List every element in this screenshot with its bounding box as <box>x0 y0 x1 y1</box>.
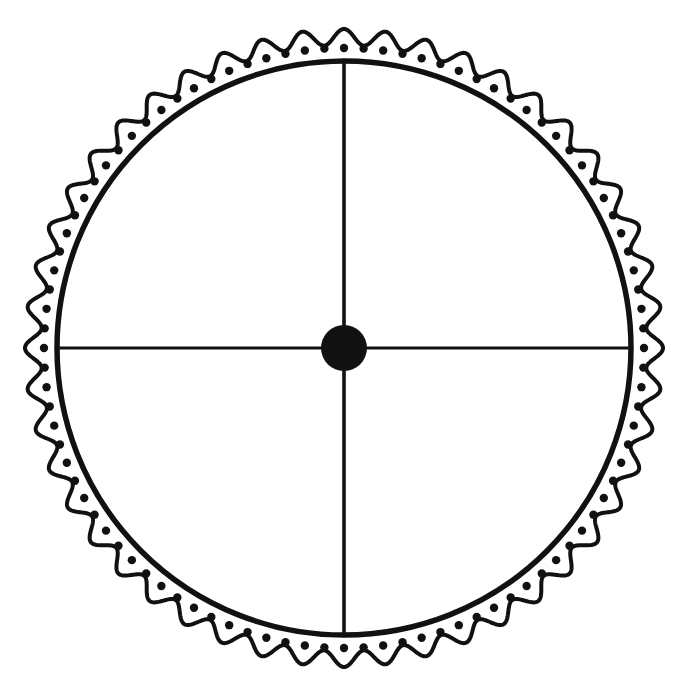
rim-dot <box>617 459 625 467</box>
rim-dot <box>173 593 181 601</box>
rim-dot <box>340 44 348 52</box>
rim-dot <box>490 604 498 612</box>
rim-dot <box>90 177 98 185</box>
rim-dot <box>600 494 608 502</box>
rim-dot <box>157 582 165 590</box>
rim-dot <box>46 285 54 293</box>
rim-dot <box>80 494 88 502</box>
rim-dot <box>506 94 514 102</box>
rim-dot <box>281 638 289 646</box>
rim-dot <box>40 324 48 332</box>
rim-dot <box>63 229 71 237</box>
rim-dot <box>639 324 647 332</box>
rim-dot <box>552 132 560 140</box>
rim-dot <box>359 44 367 52</box>
wheel-canvas <box>0 0 695 692</box>
rim-dot <box>634 402 642 410</box>
rim-dot <box>63 459 71 467</box>
rim-dot <box>42 383 50 391</box>
rim-dot <box>320 44 328 52</box>
rim-dot <box>225 67 233 75</box>
rim-dot <box>640 344 648 352</box>
rim-dot <box>262 54 270 62</box>
rim-dot <box>472 75 480 83</box>
rim-dot <box>578 526 586 534</box>
rim-dot <box>359 643 367 651</box>
rim-dot <box>50 421 58 429</box>
rim-dot <box>522 582 530 590</box>
rim-dot <box>617 229 625 237</box>
rim-dot <box>128 556 136 564</box>
rim-dot <box>114 542 122 550</box>
rim-dot <box>243 60 251 68</box>
rim-dot <box>436 628 444 636</box>
rim-dot <box>46 402 54 410</box>
rim-dot <box>340 644 348 652</box>
rim-dot <box>630 421 638 429</box>
rim-dot <box>565 146 573 154</box>
rim-dot <box>56 440 64 448</box>
rim-dot <box>578 161 586 169</box>
rim-dot <box>262 634 270 642</box>
rim-dot <box>301 641 309 649</box>
rim-dot <box>71 211 79 219</box>
rim-dot <box>637 305 645 313</box>
rim-dot <box>142 118 150 126</box>
rim-dot <box>320 643 328 651</box>
rim-dot <box>102 526 110 534</box>
rim-dot <box>379 641 387 649</box>
rim-dot <box>398 50 406 58</box>
center-hub <box>321 325 367 371</box>
rim-dot <box>522 106 530 114</box>
rim-dot <box>637 383 645 391</box>
rim-dot <box>42 305 50 313</box>
wheel-diagram <box>0 0 695 692</box>
rim-dot <box>207 75 215 83</box>
rim-dot <box>417 634 425 642</box>
rim-dot <box>589 510 597 518</box>
rim-dot <box>538 569 546 577</box>
rim-dot <box>281 50 289 58</box>
rim-dot <box>90 510 98 518</box>
rim-dot <box>417 54 425 62</box>
rim-dot <box>379 46 387 54</box>
rim-dot <box>102 161 110 169</box>
rim-dot <box>589 177 597 185</box>
rim-dot <box>634 285 642 293</box>
rim-dot <box>128 132 136 140</box>
rim-dot <box>142 569 150 577</box>
rim-dot <box>225 621 233 629</box>
rim-dot <box>552 556 560 564</box>
rim-dot <box>157 106 165 114</box>
rim-dot <box>190 84 198 92</box>
rim-dot <box>472 613 480 621</box>
rim-dot <box>114 146 122 154</box>
rim-dot <box>40 363 48 371</box>
rim-dot <box>609 211 617 219</box>
rim-dot <box>565 542 573 550</box>
rim-dot <box>436 60 444 68</box>
rim-dot <box>80 194 88 202</box>
rim-dot <box>538 118 546 126</box>
rim-dot <box>40 344 48 352</box>
rim-dot <box>455 67 463 75</box>
rim-dot <box>639 363 647 371</box>
rim-dot <box>600 194 608 202</box>
rim-dot <box>190 604 198 612</box>
rim-dot <box>56 247 64 255</box>
rim-dot <box>609 476 617 484</box>
rim-dot <box>506 593 514 601</box>
rim-dot <box>630 266 638 274</box>
rim-dot <box>173 94 181 102</box>
rim-dot <box>207 613 215 621</box>
rim-dot <box>624 440 632 448</box>
rim-dot <box>243 628 251 636</box>
rim-dot <box>455 621 463 629</box>
rim-dot <box>490 84 498 92</box>
rim-dot <box>71 476 79 484</box>
rim-dot <box>50 266 58 274</box>
rim-dot <box>398 638 406 646</box>
rim-dot <box>301 46 309 54</box>
rim-dot <box>624 247 632 255</box>
